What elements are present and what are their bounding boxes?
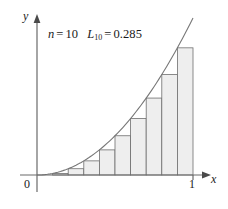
- riemann-bars-group: [53, 48, 193, 175]
- x-axis-arrowhead: [202, 172, 211, 179]
- riemann-bar: [162, 75, 178, 175]
- x-tick-label-one: 1: [189, 177, 195, 192]
- sum-annotation: n=10L10=0.285: [48, 27, 142, 42]
- riemann-bar: [177, 48, 193, 175]
- riemann-bar: [68, 169, 84, 175]
- n-equals-sign: =: [54, 27, 65, 41]
- riemann-bar: [146, 98, 162, 175]
- riemann-sum-figure: n=10L10=0.285 y x 0 1: [0, 0, 228, 209]
- origin-label: 0: [24, 177, 30, 192]
- n-value: 10: [66, 27, 79, 41]
- riemann-bar: [115, 136, 131, 175]
- riemann-bar: [99, 150, 115, 175]
- x-axis-label: x: [211, 172, 216, 187]
- l-equals-sign: =: [102, 27, 113, 41]
- y-axis-label: y: [23, 9, 28, 24]
- y-axis-arrowhead: [34, 14, 41, 23]
- riemann-bar: [84, 161, 100, 175]
- l-value: 0.285: [113, 27, 142, 41]
- riemann-bar: [131, 118, 147, 175]
